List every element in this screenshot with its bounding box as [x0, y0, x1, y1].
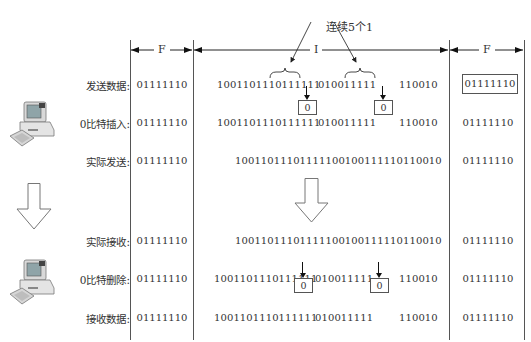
end-flag: 01111110	[458, 273, 518, 284]
data-part: 1001101110111111	[214, 312, 317, 323]
end-flag-boxed: 01111110	[462, 74, 518, 94]
end-flag: 01111110	[458, 235, 518, 246]
inserted-zero-box: 0	[298, 100, 317, 115]
data-part: 010011111	[318, 117, 376, 128]
start-flag: 01111110	[132, 155, 192, 166]
data-part: 1001101110111111	[217, 117, 320, 128]
start-flag: 01111110	[132, 312, 192, 323]
data-part: 110010	[399, 273, 438, 284]
deleted-zero-box: 0	[370, 278, 389, 293]
data-part: 110010	[399, 117, 438, 128]
row-label-actual-receive: 实际接收:	[40, 234, 130, 249]
start-flag: 01111110	[132, 235, 192, 246]
delete-arrow	[302, 262, 303, 274]
data-part: 110010	[399, 79, 438, 90]
start-flag: 01111110	[132, 79, 192, 90]
delete-arrow	[378, 262, 379, 274]
down-arrow-icon	[15, 183, 55, 233]
data-part: 010011111	[315, 273, 373, 284]
computer-icon	[8, 258, 60, 306]
segment-label-start-flag: F	[154, 43, 170, 56]
row-label-send-data: 发送数据:	[40, 78, 130, 93]
row-label-actual-send: 实际发送:	[40, 154, 130, 169]
data-part: 1001101110111111	[217, 79, 320, 90]
down-arrow-icon	[292, 178, 332, 226]
inserted-zero-box: 0	[374, 100, 393, 115]
transmitted-data: 10011011101111100100111110110010	[235, 155, 442, 166]
end-flag: 01111110	[458, 312, 518, 323]
segment-label-information: I	[310, 43, 322, 56]
data-part: 110010	[399, 312, 438, 323]
insert-arrow	[382, 86, 383, 96]
deleted-zero-box: 0	[294, 278, 313, 293]
segment-label-end-flag: F	[479, 43, 495, 56]
computer-icon	[8, 100, 60, 148]
received-data: 10011011101111100100111110110010	[235, 235, 442, 246]
insert-arrow	[306, 86, 307, 96]
end-flag: 01111110	[458, 155, 518, 166]
data-part: 010011111	[318, 79, 376, 90]
row-label-receive-data: 接收数据:	[40, 311, 130, 326]
data-part: 010011111	[315, 312, 373, 323]
start-flag: 01111110	[132, 273, 192, 284]
segment-dimension-lines	[0, 0, 531, 342]
start-flag: 01111110	[132, 117, 192, 128]
end-flag: 01111110	[458, 117, 518, 128]
